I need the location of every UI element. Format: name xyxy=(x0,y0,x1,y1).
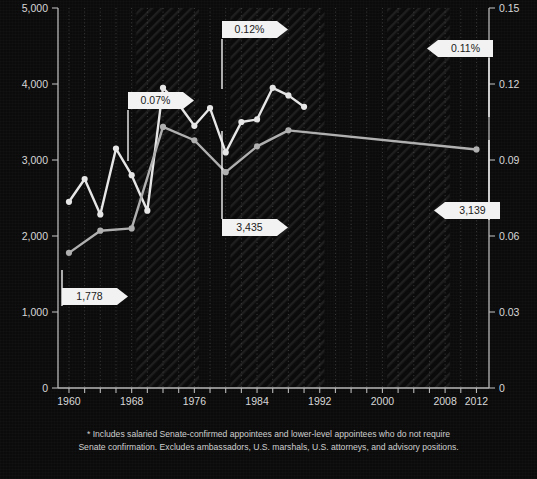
series-count-point xyxy=(254,143,260,149)
callout-label-count-2012: 3,139 xyxy=(459,204,485,216)
line-chart: 01,0002,0003,0004,0005,00000.030.060.090… xyxy=(0,0,537,479)
y-tick-label-right: 0.03 xyxy=(499,306,520,318)
x-tick-label: 1960 xyxy=(57,395,81,407)
series-count-point xyxy=(97,228,103,234)
series-percent-point xyxy=(270,85,276,91)
series-percent-point xyxy=(160,85,166,91)
series-percent-point xyxy=(223,149,229,155)
x-tick-label: 1976 xyxy=(183,395,207,407)
y-tick-label-left: 2,000 xyxy=(22,230,48,242)
x-tick-label: 1992 xyxy=(308,395,332,407)
chart-root: 01,0002,0003,0004,0005,00000.030.060.090… xyxy=(0,0,537,479)
series-count-point xyxy=(129,225,135,231)
series-count-point xyxy=(223,169,229,175)
y-tick-label-left: 5,000 xyxy=(22,2,48,14)
series-percent-point xyxy=(66,199,72,205)
callout-label-pct-1980: 0.12% xyxy=(235,23,265,35)
series-count-point xyxy=(473,146,479,152)
callout-label-count-1960: 1,778 xyxy=(76,290,102,302)
y-tick-label-right: 0.15 xyxy=(499,2,520,14)
y-axis-left-ticks: 01,0002,0003,0004,0005,000 xyxy=(22,2,58,394)
x-tick-label: 2012 xyxy=(465,395,489,407)
y-axis-right-ticks: 00.030.060.090.120.15 xyxy=(489,2,520,394)
series-count-point xyxy=(285,127,291,133)
chart-footnote: * Includes salaried Senate-confirmed app… xyxy=(0,428,537,455)
series-count-point xyxy=(66,250,72,256)
y-tick-label-right: 0.12 xyxy=(499,78,520,90)
series-percent-point xyxy=(113,146,119,152)
x-axis-ticks: 19601968197619841992200020082012 xyxy=(57,388,488,407)
y-tick-label-left: 1,000 xyxy=(22,306,48,318)
admin-band-0 xyxy=(136,8,199,388)
x-tick-label: 2008 xyxy=(433,395,457,407)
admin-band-2 xyxy=(387,8,450,388)
series-percent-point xyxy=(129,172,135,178)
series-percent-point xyxy=(285,92,291,98)
series-percent-point xyxy=(301,104,307,110)
series-percent-point xyxy=(254,116,260,122)
x-tick-label: 1984 xyxy=(245,395,269,407)
x-tick-label: 2000 xyxy=(371,395,395,407)
y-tick-label-left: 0 xyxy=(42,382,48,394)
y-tick-label-right: 0 xyxy=(499,382,505,394)
series-count-point xyxy=(191,137,197,143)
y-tick-label-right: 0.06 xyxy=(499,230,520,242)
series-percent-point xyxy=(97,211,103,217)
y-tick-label-right: 0.09 xyxy=(499,154,520,166)
y-tick-label-left: 3,000 xyxy=(22,154,48,166)
callout-label-pct-2012: 0.11% xyxy=(451,42,480,54)
footnote-line-1: * Includes salaried Senate-confirmed app… xyxy=(0,428,537,441)
series-percent-point xyxy=(238,119,244,125)
admin-bands xyxy=(136,8,449,388)
series-percent-point xyxy=(82,176,88,182)
y-tick-label-left: 4,000 xyxy=(22,78,48,90)
series-percent-point xyxy=(191,123,197,129)
admin-band-1 xyxy=(230,8,324,388)
callout-label-count-1980: 3,435 xyxy=(236,221,262,233)
x-tick-label: 1968 xyxy=(120,395,144,407)
callout-label-pct-1968: 0.07% xyxy=(141,94,171,106)
series-percent-point xyxy=(144,208,150,214)
footnote-line-2: Senate confirmation. Excludes ambassador… xyxy=(0,441,537,454)
series-count-point xyxy=(160,124,166,130)
series-percent-point xyxy=(207,105,213,111)
